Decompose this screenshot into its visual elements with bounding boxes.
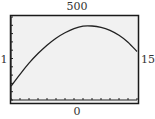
graph-window (0, 0, 155, 119)
